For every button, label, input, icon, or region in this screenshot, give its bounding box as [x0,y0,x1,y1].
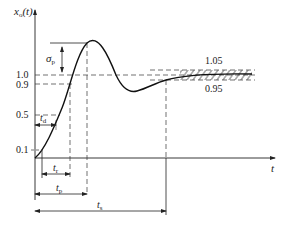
overshoot-label: σp [46,53,55,66]
step-response-diagram: xo(t) t 1.0 0.9 0.5 0.1 1.05 0.95 σp td … [0,0,285,225]
axes [35,10,275,200]
level-0.9-label: 0.9 [16,80,29,90]
level-0.5-label: 0.5 [16,110,29,120]
x-axis-label: t [271,163,274,174]
td-label: td [40,113,46,125]
tr-label: tr [53,163,58,175]
level-0.1-label: 0.1 [16,145,29,155]
y-axis-label: xo(t) [14,6,33,19]
tp-label: tp [56,183,62,195]
ts-label: ts [97,200,103,212]
band-upper-label: 1.05 [205,56,223,66]
band-lower-label: 0.95 [205,84,223,94]
overshoot-marker [50,43,87,72]
